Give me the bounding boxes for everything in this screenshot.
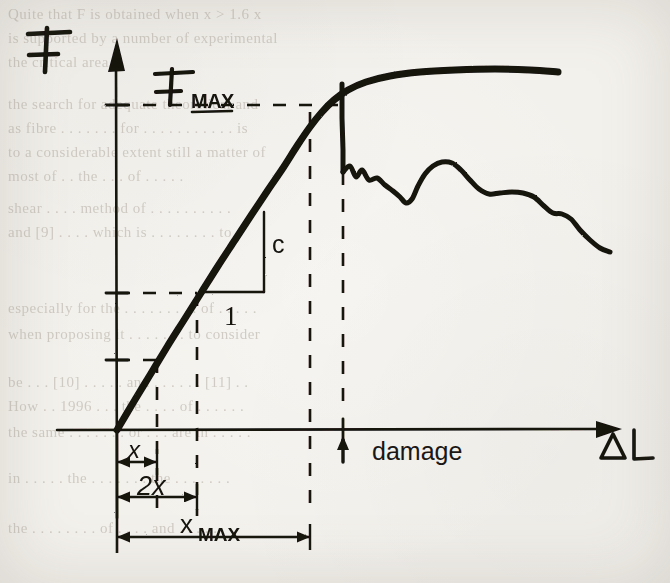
x-axis-label-deltaL xyxy=(601,430,653,459)
dimension-label-x: x xyxy=(127,436,141,463)
slope-rise-label: c xyxy=(272,230,285,258)
slope-run-label: 1 xyxy=(224,301,238,331)
curve-damage-drop xyxy=(342,84,343,172)
damage-label: damage xyxy=(372,437,462,465)
dim-arrowhead-left xyxy=(117,492,130,503)
fmax-subscript: MAX xyxy=(191,90,235,112)
svg-text:x: x xyxy=(180,509,193,539)
dimension-label-xmax: x MAX xyxy=(180,509,241,545)
dim-arrowhead-left xyxy=(117,532,130,543)
dim-arrowhead-right xyxy=(184,492,197,503)
fmax-label: MAX xyxy=(155,69,235,112)
y-axis-label-F xyxy=(28,28,70,72)
force-displacement-figure: MAX c 1 x 2x x MAX damage xyxy=(0,0,670,583)
dim-arrowhead-right xyxy=(144,457,157,468)
damage-pointer-icon xyxy=(337,436,349,462)
dim-arrowhead-right xyxy=(297,532,310,543)
dimension-label-2x: 2x xyxy=(136,471,167,501)
curve-group xyxy=(117,69,610,430)
curve-loading xyxy=(117,69,558,430)
curve-post-failure xyxy=(343,162,610,252)
x-axis xyxy=(57,421,622,438)
xmax-subscript: MAX xyxy=(198,524,241,545)
